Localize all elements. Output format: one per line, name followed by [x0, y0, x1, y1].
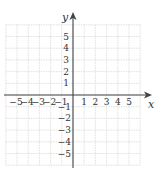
tick-label: 4: [63, 43, 69, 53]
tick-label: 1: [81, 97, 87, 107]
tick-label: 3: [63, 55, 69, 65]
coordinate-plane: x y −5−4−3−2−1 12345 54321 −1−2−3−4−5: [0, 0, 165, 173]
x-axis-label: x: [148, 98, 155, 111]
y-tick-labels-positive: 54321: [63, 32, 69, 89]
tick-label: −5: [58, 149, 72, 159]
tick-label: 3: [104, 97, 110, 107]
tick-label: 5: [63, 32, 69, 42]
tick-label: −2: [58, 113, 71, 123]
tick-label: −3: [58, 125, 72, 135]
y-axis-label: y: [61, 11, 69, 24]
y-tick-labels-negative: −1−2−3−4−5: [58, 102, 72, 159]
x-tick-labels-positive: 12345: [81, 97, 132, 107]
tick-label: −4: [58, 137, 72, 147]
tick-label: 2: [63, 67, 69, 77]
tick-label: 5: [126, 97, 132, 107]
tick-label: 2: [93, 97, 99, 107]
tick-label: 1: [63, 78, 69, 88]
tick-label: −1: [58, 102, 71, 112]
tick-label: 4: [115, 97, 121, 107]
